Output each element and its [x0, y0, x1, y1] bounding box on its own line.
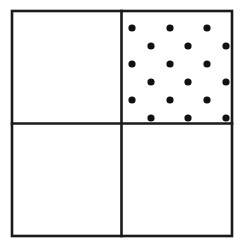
pattern-dot [222, 114, 229, 121]
quadrant-bottom-left [12, 124, 122, 237]
pattern-dot [147, 42, 154, 49]
pattern-dot [166, 24, 173, 31]
pattern-dot [203, 96, 210, 103]
pattern-dot [184, 114, 191, 121]
quadrant-top-left-area [12, 11, 122, 124]
pattern-dot [166, 96, 173, 103]
pattern-dot [166, 60, 173, 67]
quadrant-bottom-right [122, 124, 233, 237]
pattern-dot [147, 114, 154, 121]
quadrant-top-left [12, 11, 122, 124]
quadrant-top-right [122, 11, 233, 124]
pattern-dot [203, 24, 210, 31]
pattern-dot [184, 42, 191, 49]
quadrant-bottom-right-area [122, 124, 233, 237]
pattern-dot [222, 42, 229, 49]
pattern-dot [147, 78, 154, 85]
quadrant-top-right-area [122, 11, 233, 124]
quadrant-diagram [0, 0, 245, 249]
pattern-dot [128, 24, 135, 31]
figure-canvas [0, 0, 245, 249]
pattern-dot [184, 78, 191, 85]
pattern-dot [203, 60, 210, 67]
quadrant-bottom-left-area [12, 124, 122, 237]
pattern-dot [128, 96, 135, 103]
pattern-dot [128, 60, 135, 67]
pattern-dot [222, 78, 229, 85]
